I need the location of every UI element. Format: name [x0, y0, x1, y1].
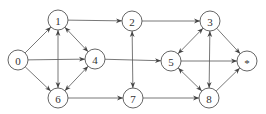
- node-label: 2: [129, 16, 135, 28]
- edge-3-star: [217, 28, 240, 53]
- node-7: 7: [123, 88, 143, 108]
- node-4: 4: [85, 49, 105, 69]
- node-1: 1: [48, 10, 68, 30]
- edge-3-5: [178, 28, 203, 54]
- node-label: 5: [168, 56, 174, 68]
- edge-5-8: [178, 68, 202, 91]
- node-label: 1: [55, 15, 61, 27]
- node-label: *: [244, 57, 250, 69]
- node-label: 7: [130, 93, 136, 105]
- node-label: 0: [15, 55, 21, 67]
- node-2: 2: [122, 11, 142, 31]
- node-label: 3: [207, 16, 213, 28]
- edge-0-4: [28, 59, 85, 60]
- node-label: 4: [92, 54, 98, 66]
- edge-1-2: [68, 20, 122, 21]
- node-5: 5: [161, 51, 181, 71]
- node-label: 8: [206, 93, 212, 105]
- node-3: 3: [200, 11, 220, 31]
- directed-graph-diagram: 012345678*: [0, 0, 266, 114]
- node-star: *: [237, 51, 257, 71]
- edge-8-star: [216, 68, 240, 91]
- edge-4-5: [105, 59, 161, 60]
- edge-4-6: [65, 66, 88, 91]
- node-8: 8: [199, 88, 219, 108]
- node-label: 6: [55, 93, 61, 105]
- edge-3-8: [209, 31, 210, 88]
- edge-0-1: [25, 27, 51, 53]
- edge-2-7: [132, 31, 133, 88]
- graph-canvas: 012345678*: [0, 0, 266, 114]
- node-6: 6: [48, 88, 68, 108]
- edge-1-4: [65, 27, 88, 52]
- edges-layer: [25, 20, 240, 98]
- edge-0-6: [25, 67, 51, 91]
- node-0: 0: [8, 50, 28, 70]
